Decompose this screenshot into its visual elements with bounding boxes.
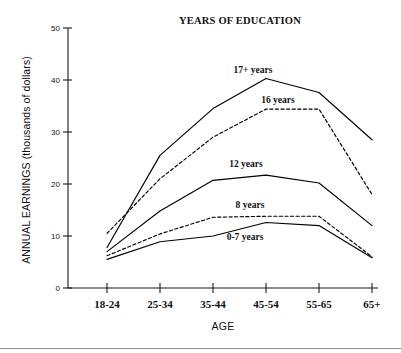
series-label-12-years: 12 years (229, 159, 263, 169)
x-tick-label: 65+ (363, 298, 380, 310)
line-chart: YEARS OF EDUCATION ANNUAL EARNINGS (thou… (0, 0, 401, 353)
y-tick-group: 01020304050 (51, 24, 72, 293)
series-line-16-years (107, 109, 372, 233)
footer-divider (0, 348, 401, 349)
x-tick-label: 55-65 (306, 298, 332, 310)
y-tick-label: 40 (51, 76, 60, 85)
x-tick-group: 18-2425-3435-4445-5455-6565+ (94, 283, 380, 310)
y-tick-label: 0 (56, 284, 61, 293)
x-tick-label: 18-24 (94, 298, 120, 310)
y-axis-label: ANNUAL EARNINGS (thousands of dollars) (20, 56, 32, 264)
y-tick-label: 50 (51, 24, 60, 33)
series-label-group: 17+ years16 years12 years8 years0-7 year… (227, 65, 295, 242)
x-tick-label: 25-34 (147, 298, 173, 310)
y-tick-label: 20 (51, 180, 60, 189)
series-label-17-years: 17+ years (234, 65, 273, 75)
series-label-16-years: 16 years (261, 95, 295, 105)
y-tick-label: 10 (51, 232, 60, 241)
chart-title: YEARS OF EDUCATION (179, 15, 301, 26)
x-tick-label: 45-54 (253, 298, 279, 310)
series-label-8-years: 8 years (236, 200, 265, 210)
chart-figure: YEARS OF EDUCATION ANNUAL EARNINGS (thou… (0, 0, 401, 353)
series-label-0-7-years: 0-7 years (227, 232, 264, 242)
x-axis-label: AGE (211, 320, 234, 332)
y-tick-label: 30 (51, 128, 60, 137)
x-tick-label: 35-44 (200, 298, 226, 310)
